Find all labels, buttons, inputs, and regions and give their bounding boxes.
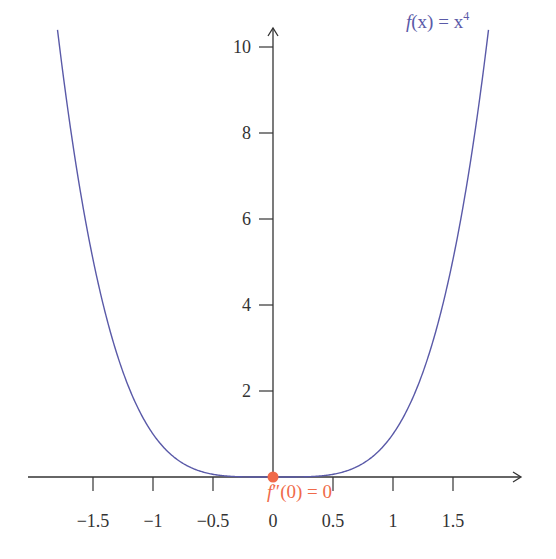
axes: −1.5−1−0.500.511.5246810: [28, 28, 521, 531]
x-tick-label: −0.5: [197, 511, 230, 531]
second-derivative-label: f″(0) = 0: [267, 481, 332, 503]
y-tick-label: 10: [233, 37, 251, 57]
y-tick-label: 2: [242, 381, 251, 401]
x-tick-label: 0.5: [322, 511, 345, 531]
y-tick-label: 6: [242, 209, 251, 229]
y-tick-label: 8: [242, 123, 251, 143]
x-tick-label: −1: [143, 511, 162, 531]
x-tick-label: 0: [269, 511, 278, 531]
y-tick-label: 4: [242, 295, 251, 315]
x-tick-label: 1.5: [442, 511, 465, 531]
x-tick-label: 1: [389, 511, 398, 531]
chart-canvas: −1.5−1−0.500.511.5246810 f(x) = x4 f″(0)…: [0, 0, 556, 559]
function-label: f(x) = x4: [406, 9, 469, 33]
x-tick-label: −1.5: [77, 511, 110, 531]
